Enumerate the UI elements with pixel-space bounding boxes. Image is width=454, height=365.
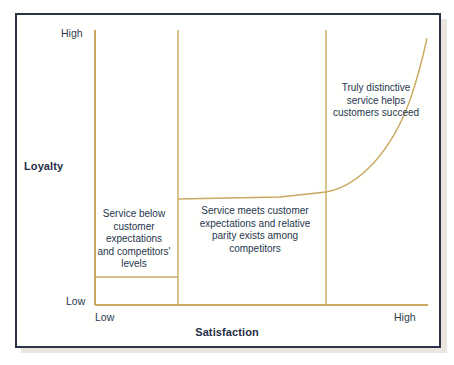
- annotation-low-satisfaction: Service below customer expectations and …: [88, 208, 180, 271]
- satisfaction-loyalty-chart: Loyalty Satisfaction High Low Low High S…: [0, 0, 454, 365]
- annotation-high-satisfaction: Truly distinctive service helps customer…: [316, 82, 436, 120]
- x-axis-tick-low: Low: [95, 311, 114, 323]
- x-axis-tick-high: High: [394, 311, 416, 323]
- curve-segment-mid: [178, 192, 326, 199]
- y-axis-tick-low: Low: [66, 295, 85, 307]
- plot-area: [0, 0, 454, 365]
- x-axis-title: Satisfaction: [0, 326, 454, 338]
- y-axis-tick-high: High: [61, 27, 83, 39]
- annotation-moderate-satisfaction: Service meets customer expectations and …: [182, 205, 328, 255]
- y-axis-title: Loyalty: [24, 160, 63, 172]
